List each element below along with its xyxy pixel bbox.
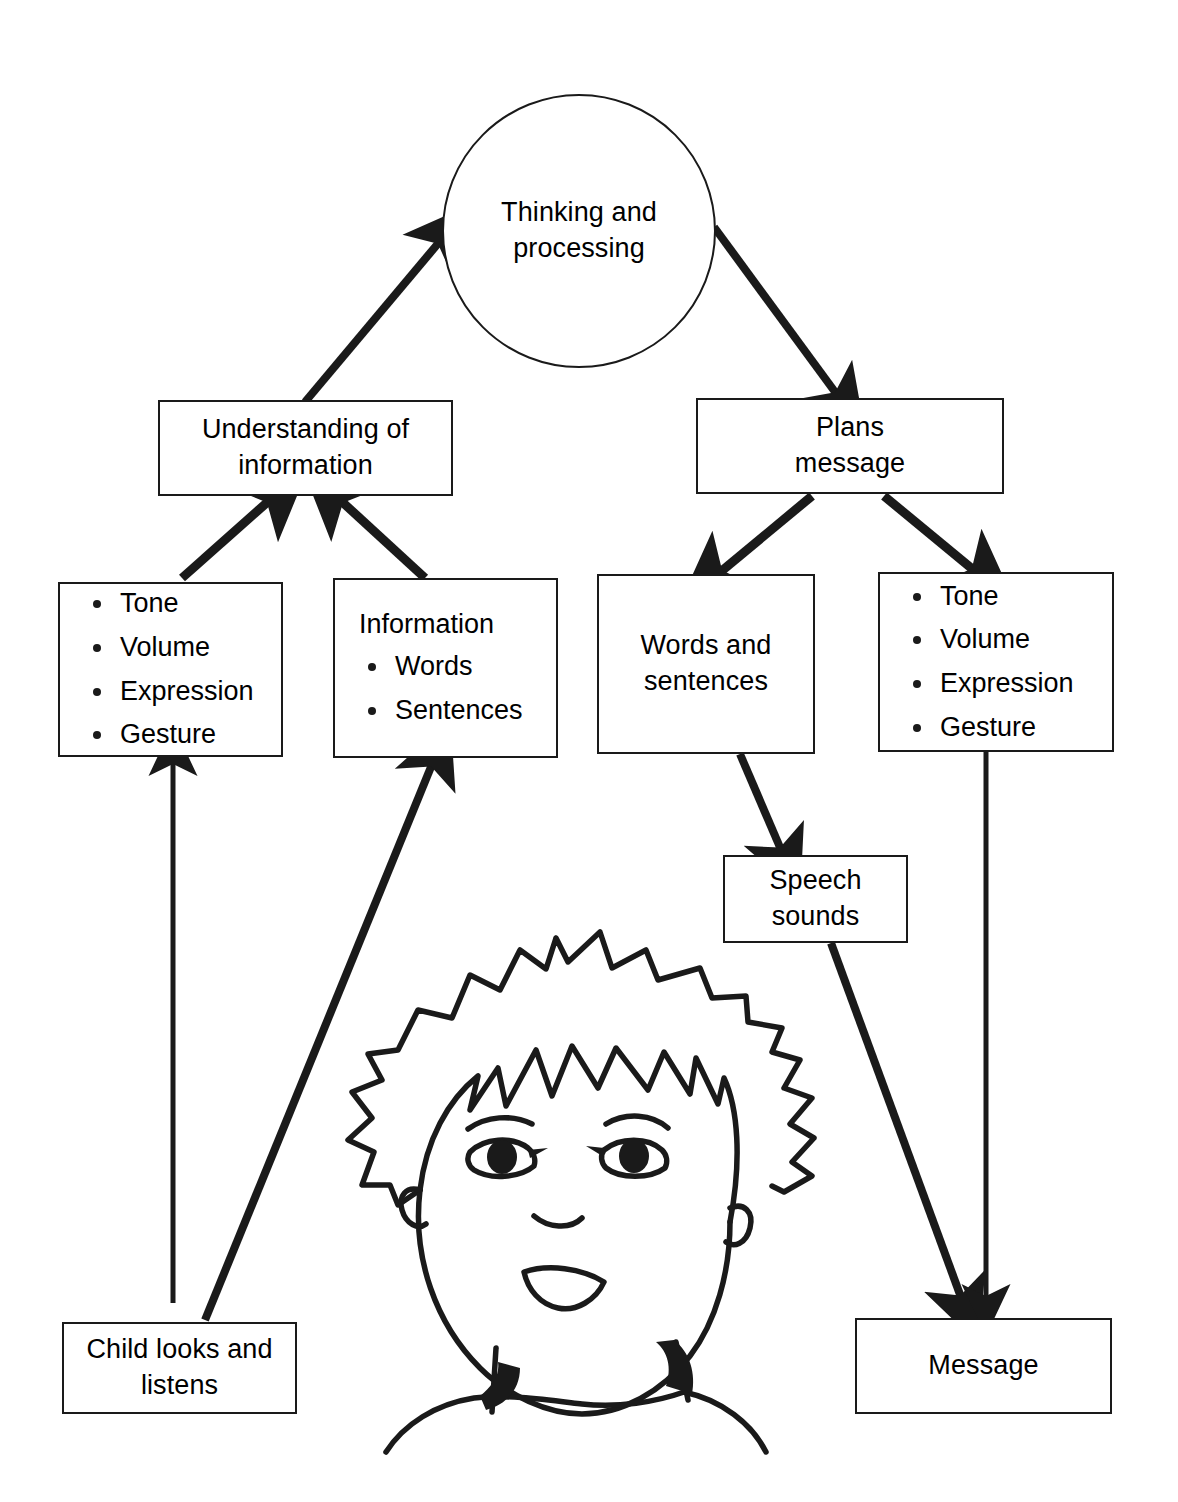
node-receptive-information[interactable]: Information Words Sentences [333,578,558,758]
node-plans-message[interactable]: Plans message [696,398,1004,494]
list-item: Tone [90,582,281,626]
list-item: Gesture [90,713,281,757]
node-plans-message-label: Plans message [795,410,905,481]
edge-information-to-understanding [339,499,425,578]
receptive-information-list: Words Sentences [335,645,556,732]
receptive-information-heading: Information [335,604,556,645]
edge-words-to-speech-sounds [740,754,782,852]
list-item: Gesture [910,706,1112,750]
node-expressive-paralinguistic[interactable]: Tone Volume Expression Gesture [878,572,1114,752]
list-item: Words [365,645,556,689]
list-item: Sentences [365,689,556,733]
expressive-paralinguistic-list: Tone Volume Expression Gesture [880,575,1112,750]
node-understanding-of-information-label: Understanding of information [202,412,409,483]
list-item: Expression [910,662,1112,706]
list-item: Volume [910,618,1112,662]
node-thinking-and-processing-label: Thinking and processing [501,195,657,266]
list-item: Expression [90,670,281,714]
node-speech-sounds[interactable]: Speech sounds [723,855,908,943]
edge-thinking-to-plans [714,227,838,396]
node-receptive-paralinguistic[interactable]: Tone Volume Expression Gesture [58,582,283,757]
node-words-and-sentences-label: Words and sentences [641,628,772,699]
node-child-looks-and-listens-label: Child looks and listens [86,1332,272,1403]
receptive-paralinguistic-list: Tone Volume Expression Gesture [60,582,281,757]
edge-speech-sounds-to-message [831,943,962,1300]
edge-paralinguistic-to-understanding [182,499,271,578]
edge-understanding-to-thinking [305,240,441,402]
node-message[interactable]: Message [855,1318,1112,1414]
node-message-label: Message [928,1348,1038,1384]
node-child-looks-and-listens[interactable]: Child looks and listens [62,1322,297,1414]
edge-plans-to-paralinguistic [884,496,976,572]
diagram-canvas: Thinking and processing Understanding of… [0,0,1178,1502]
edge-plans-to-words [718,496,812,574]
node-understanding-of-information[interactable]: Understanding of information [158,400,453,496]
node-words-and-sentences[interactable]: Words and sentences [597,574,815,754]
list-item: Volume [90,626,281,670]
node-thinking-and-processing[interactable]: Thinking and processing [442,94,716,368]
list-item: Tone [910,575,1112,619]
node-speech-sounds-label: Speech sounds [769,863,861,934]
edge-child-to-information [205,762,433,1320]
